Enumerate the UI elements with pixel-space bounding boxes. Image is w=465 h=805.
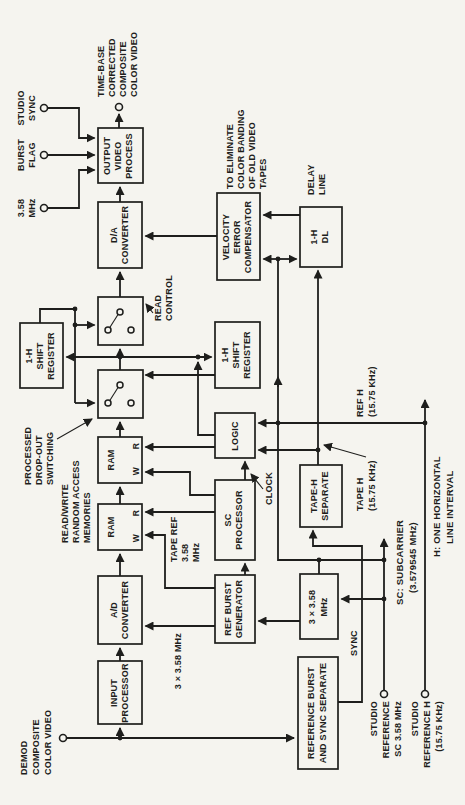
tape-ref-label: 3.58 (180, 544, 190, 562)
358mhz-label: MHz (27, 198, 37, 217)
wire-demod-to-input-processor (67, 728, 121, 738)
block-label: 1-H (24, 348, 34, 363)
sync-label: SYNC (349, 630, 359, 656)
block-label: LOGIC (230, 421, 240, 451)
burst-flag-label: FLAG (27, 142, 37, 167)
pointer-clock-label (251, 474, 263, 489)
block-label: VIDEO (113, 141, 123, 170)
switch-lever (110, 388, 119, 402)
processed-dropout-label: PROCESSED (23, 426, 33, 485)
358mhz-label: 3.58 (16, 199, 26, 217)
demod-label: COMPOSITE (31, 719, 41, 775)
block-ref-burst-generator: REF BURST GENERATOR (215, 575, 255, 643)
burst-flag-terminal (41, 152, 48, 159)
output-label: CORRECTED (107, 38, 117, 97)
studio-sync-terminal (41, 105, 48, 112)
rw-ram-label: RANDOM ACCESS (71, 460, 81, 543)
pointer-processed-label (57, 419, 92, 439)
wire-358-input (48, 170, 95, 208)
block-label: VELOCITY (221, 214, 231, 261)
block-label: PROCESSOR (234, 490, 244, 550)
block-label: COMPENSATOR (243, 201, 253, 274)
studio-ref-h-terminal (422, 691, 429, 698)
pointer-read-control-label (146, 304, 153, 313)
block-label: MHz (319, 597, 329, 616)
switch-lever (110, 315, 119, 329)
output-label: COMPOSITE (118, 41, 128, 97)
block-label: 1-H (220, 347, 230, 362)
block-label: GENERATOR (234, 579, 244, 638)
block-sc-processor: SC PROCESSOR (215, 480, 255, 560)
ram-read-label: R (131, 443, 141, 449)
tape-h-label: TAPE H (355, 477, 365, 511)
studio-ref-h-label: REFERENCE H (422, 701, 432, 768)
block-ad-converter: A/D CONVERTER (98, 576, 142, 644)
subcarrier-note: (3.579545 MHz) (407, 522, 418, 593)
eliminate-banding-label: COLOR BANDING (236, 109, 246, 189)
tape-ref-label: TAPE REF (169, 516, 179, 562)
block-velocity-error-compensator: VELOCITY ERROR COMPENSATOR (217, 193, 260, 280)
wire-tapeh-to-logic (259, 450, 319, 465)
block-label: OUTPUT (102, 137, 112, 176)
block-label: TAPE-H (309, 479, 319, 513)
block-label: D/A (109, 227, 119, 243)
block-label: A/D (109, 602, 119, 618)
block-ram2: RAM W R (98, 437, 142, 483)
studio-ref-h-label: (15.75 KHz) (434, 701, 444, 752)
tape-ref-label: MHz (191, 543, 201, 562)
delay-line-label: DELAY (306, 164, 316, 195)
block-label: RAM (106, 449, 116, 470)
block-label: SHIFT (35, 342, 45, 369)
block-label: INPUT (109, 679, 119, 707)
studio-sync-label: STUDIO (16, 90, 26, 125)
block-label: PROCESS (124, 133, 134, 178)
block-logic: LOGIC (215, 413, 255, 458)
output-label: TIME-BASE (96, 46, 106, 97)
subcarrier-note: SC: SUBCARRIER (394, 520, 405, 605)
wire-logic-to-shift-bus (198, 362, 215, 435)
block-label: REF BURST (223, 582, 233, 636)
ram-read-label: R (131, 510, 141, 516)
pointer-tapeh-label (324, 445, 366, 457)
wire-studio-sync-input (48, 108, 95, 138)
block-label: REGISTER (46, 332, 56, 380)
studio-ref-sc-label: REFERENCE (381, 701, 391, 758)
scanned-page: INPUT PROCESSOR A/D CONVERTER RAM W R RA… (0, 0, 465, 805)
output-terminal (116, 104, 123, 111)
ram-write-label: W (131, 533, 141, 542)
delay-line-label: LINE (317, 174, 327, 195)
block-label: 1-H (309, 229, 319, 244)
block-tape-h-separate: TAPE-H SEPARATE (300, 465, 342, 527)
block-label: CONVERTER (120, 206, 130, 265)
demod-label: DEMOD (19, 740, 29, 775)
rw-ram-label: MEMORIES (82, 492, 92, 543)
horizontal-note: LINE INTERVAL (444, 470, 455, 544)
block-label: REFERENCE BURST (306, 667, 316, 759)
studio-ref-h-label: STUDIO (410, 701, 420, 736)
horizontal-note: H: ONE HORIZONTAL (431, 456, 442, 557)
block-shift-register-bottom: 1-H SHIFT REGISTER (215, 322, 260, 388)
block-label: SEPARATE (320, 471, 330, 520)
block-output-video-process: OUTPUT VIDEO PROCESS (98, 128, 143, 183)
block-label: REGISTER (242, 331, 252, 379)
block-label: ERROR (232, 220, 242, 254)
block-read-switch (98, 297, 143, 345)
processed-dropout-label: DROP-OUT (34, 435, 44, 485)
mult-clock-label: 3 × 3.58 MHz (173, 633, 183, 689)
burst-flag-label: BURST (16, 139, 26, 171)
block-label: 3 × 3.58 (307, 590, 317, 624)
processed-dropout-label: SWITCHING (45, 432, 55, 485)
block-label: SHIFT (231, 341, 241, 368)
block-input-processor: INPUT PROCESSOR (98, 661, 142, 724)
clock-label: CLOCK (264, 472, 274, 505)
read-control-label: READ (153, 294, 163, 321)
ref-h-label: (15.75 KHz) (367, 366, 377, 417)
studio-ref-sc-label: SC 3.58 MHz (393, 701, 403, 757)
block-ram1: RAM W R (98, 504, 142, 550)
demod-terminal (60, 735, 67, 742)
demod-label: COLOR VIDEO (43, 710, 53, 775)
block-label: SC (223, 513, 233, 526)
diagram-svg: INPUT PROCESSOR A/D CONVERTER RAM W R RA… (0, 0, 465, 805)
block-label: PROCESSOR (120, 663, 130, 723)
ram-write-label: W (131, 466, 141, 475)
